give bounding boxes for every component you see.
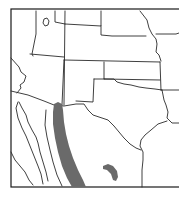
border-red-river	[104, 79, 162, 90]
border-wyoming-colorado	[65, 11, 101, 26]
range-map	[0, 0, 179, 198]
border-wyoming-south	[55, 11, 65, 24]
border-utah-arizona	[30, 54, 64, 57]
border-texas-louisiana	[162, 90, 179, 123]
border-nebraska	[101, 26, 146, 36]
border-us-mexico	[11, 91, 141, 150]
border-baja-east	[19, 102, 48, 181]
border-kansas-oklahoma	[104, 62, 160, 80]
border-colorado-newmexico	[64, 60, 160, 62]
border-iowa-missouri	[156, 33, 179, 34]
border-gulf-california	[16, 102, 43, 184]
great-salt-lake	[43, 18, 49, 26]
border-nevada-utah	[32, 11, 36, 56]
border-oklahoma-east	[160, 62, 161, 90]
range-area-main	[53, 102, 86, 187]
border-california-nevada	[11, 58, 26, 93]
border-baja-west	[11, 152, 33, 185]
border-newmexico-texas	[76, 79, 104, 102]
border-utah-colorado	[64, 11, 65, 105]
border-texas-gulf-coast	[140, 121, 167, 187]
map-canvas	[0, 0, 179, 198]
range-area-disjunct	[103, 164, 118, 181]
